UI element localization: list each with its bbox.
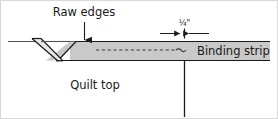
raw-edges-label: Raw edges [53,5,116,19]
quilt-top-label: Quilt top [70,78,120,92]
binding-strip-label: Binding strip [197,44,270,58]
dimension-label: ¼" [179,19,190,28]
diagram-canvas: ¼" Raw edges Binding strip Quilt top [0,0,278,119]
quilt-binding-diagram: ¼" Raw edges Binding strip Quilt top [0,0,278,119]
